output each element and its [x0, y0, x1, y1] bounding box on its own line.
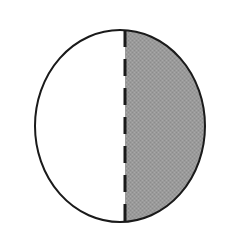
- figure-canvas: [0, 0, 230, 240]
- circle-diagram: [0, 0, 230, 240]
